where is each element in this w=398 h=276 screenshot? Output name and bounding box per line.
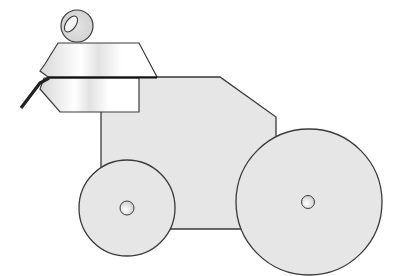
illustration-canvas: Line drawing of a wheeled robot/vehicle … — [0, 0, 398, 276]
lower-head-plate — [40, 78, 139, 112]
upper-head-plate — [40, 43, 157, 78]
large-wheel-hub — [302, 196, 315, 209]
large-wheel — [236, 129, 382, 275]
ball-top — [61, 10, 93, 42]
small-wheel — [79, 160, 175, 256]
small-wheel-hub — [120, 201, 134, 215]
robot-vehicle-drawing — [0, 0, 398, 276]
